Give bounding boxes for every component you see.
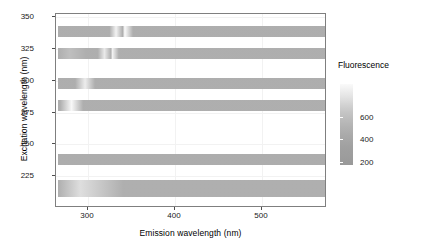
plot-panel	[55, 13, 326, 207]
heatmap-band	[58, 100, 326, 111]
heatmap-band	[58, 78, 326, 89]
legend-tick-label: 600	[360, 113, 373, 122]
x-tick-label: 500	[241, 211, 281, 220]
heatmap-band	[58, 180, 326, 197]
heatmap-band	[58, 26, 326, 37]
x-tick-label: 400	[154, 211, 194, 220]
y-tick-label: 275	[0, 108, 34, 117]
gridline-horizontal	[56, 144, 325, 145]
y-tick-label: 325	[0, 44, 34, 53]
heatmap-band	[58, 154, 326, 165]
gridline-horizontal	[56, 17, 325, 18]
y-tick-label: 300	[0, 76, 34, 85]
legend-tick-label: 200	[360, 158, 373, 167]
x-axis-title: Emission wavelength (nm)	[55, 228, 326, 238]
legend-title: Fluorescence	[338, 60, 389, 70]
legend-tick-mark	[340, 117, 343, 118]
y-tick-label: 225	[0, 171, 34, 180]
heatmap-band	[58, 48, 326, 59]
y-tick-label: 250	[0, 139, 34, 148]
x-tick-mark	[174, 207, 175, 210]
gridline-horizontal	[56, 176, 325, 177]
legend-tick-mark	[340, 162, 343, 163]
x-tick-mark	[87, 207, 88, 210]
x-tick-label: 300	[67, 211, 107, 220]
legend-tick-mark	[340, 139, 343, 140]
legend-colorbar	[340, 84, 353, 165]
gridline-horizontal	[56, 113, 325, 114]
fluorescence-eem-chart: Excitation wavelength (nm) 3503253002752…	[0, 0, 423, 244]
x-tick-mark	[261, 207, 262, 210]
legend-tick-label: 400	[360, 135, 373, 144]
y-tick-label: 350	[0, 12, 34, 21]
